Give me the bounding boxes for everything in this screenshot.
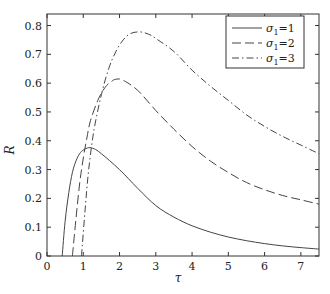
y-tick-label: 0.4 — [25, 135, 43, 148]
y-tick-label: 0.2 — [25, 192, 43, 205]
y-tick-label: 0.5 — [25, 106, 43, 119]
x-tick-label: 4 — [189, 260, 196, 273]
y-tick-label: 0.1 — [25, 221, 43, 234]
y-tick-label: 0.6 — [25, 77, 43, 90]
y-axis-label: R — [3, 145, 17, 155]
legend-label-1: σ1=1 — [266, 22, 295, 37]
x-tick-label: 0 — [44, 260, 51, 273]
x-tick-label: 7 — [297, 260, 304, 273]
x-axis-label: τ — [175, 271, 182, 285]
legend-label-3: σ1=3 — [266, 52, 295, 67]
legend-label-2: σ1=2 — [266, 37, 295, 52]
y-tick-label: 0 — [35, 250, 42, 263]
x-tick-label: 1 — [80, 260, 87, 273]
y-tick-label: 0.7 — [25, 48, 43, 61]
series-line-2 — [72, 79, 319, 256]
series-line-1 — [62, 148, 319, 256]
x-tick-label: 6 — [261, 260, 268, 273]
legend: σ1=1σ1=2σ1=3 — [226, 16, 304, 68]
y-tick-label: 0.3 — [25, 164, 43, 177]
line-chart: 01234567 00.10.20.30.40.50.60.70.8 τ R σ… — [0, 0, 330, 294]
y-tick-label: 0.8 — [25, 20, 43, 33]
x-tick-label: 3 — [152, 260, 159, 273]
x-tick-label: 5 — [225, 260, 232, 273]
x-tick-label: 2 — [116, 260, 123, 273]
